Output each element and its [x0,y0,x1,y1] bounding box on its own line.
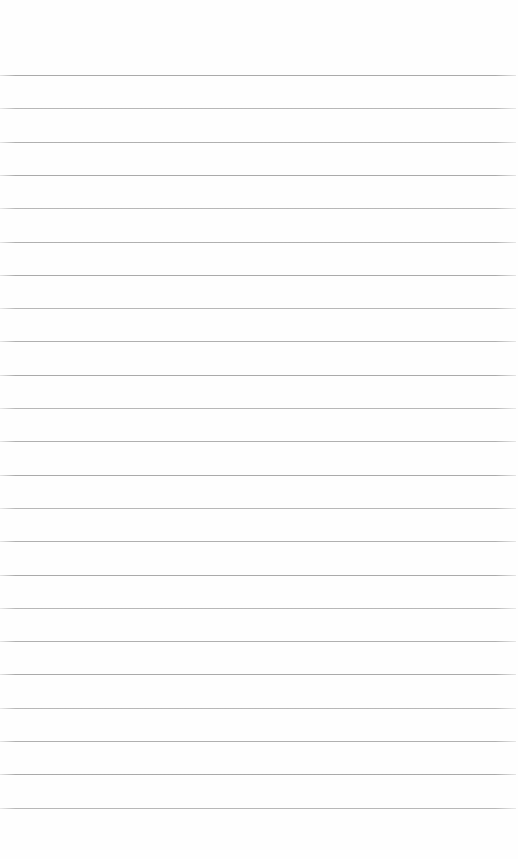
ruled-line [0,475,516,476]
ruled-line [0,641,516,642]
ruled-line [0,608,516,609]
ruled-line [0,408,516,409]
ruled-paper-page [0,0,518,859]
ruled-line [0,142,516,143]
ruled-line [0,508,516,509]
ruled-line [0,674,516,675]
ruled-line [0,441,516,442]
ruled-line [0,75,516,76]
ruled-line [0,242,516,243]
ruled-line [0,275,516,276]
ruled-line [0,341,516,342]
ruled-line [0,774,516,775]
ruled-line [0,108,516,109]
ruled-line [0,208,516,209]
ruled-line [0,708,516,709]
ruled-line [0,575,516,576]
ruled-line [0,175,516,176]
ruled-line [0,541,516,542]
ruled-line [0,308,516,309]
ruled-line [0,741,516,742]
ruled-line [0,808,516,809]
ruled-line [0,375,516,376]
